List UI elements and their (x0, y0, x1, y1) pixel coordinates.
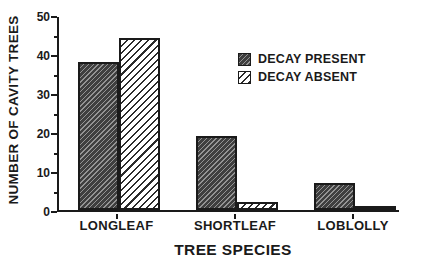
legend-label: DECAY ABSENT (258, 70, 357, 84)
y-tick-label-20: 20 (20, 127, 50, 141)
y-tick-label-0: 0 (20, 205, 50, 219)
bar-longleaf-decay-absent (119, 38, 160, 210)
category-label-shortleaf: SHORTLEAF (180, 218, 290, 233)
bar-loblolly-decay-present (314, 183, 355, 210)
y-tick-label-50: 50 (20, 10, 50, 24)
y-minor-tick-15 (54, 153, 57, 155)
y-tick-label-10: 10 (20, 166, 50, 180)
legend-item-decay-absent: DECAY ABSENT (238, 70, 366, 84)
y-major-tick-50 (51, 16, 57, 18)
y-minor-tick-35 (54, 75, 57, 77)
category-label-loblolly: LOBLOLLY (298, 218, 408, 233)
y-major-tick-20 (51, 133, 57, 135)
y-tick-label-40: 40 (20, 49, 50, 63)
bar-shortleaf-decay-present (196, 136, 237, 210)
x-axis-title: TREE SPECIES (123, 241, 343, 259)
y-axis-title: NUMBER OF CAVITY TREES (6, 5, 22, 215)
plot-area (57, 17, 399, 212)
y-tick-label-30: 30 (20, 88, 50, 102)
y-major-tick-30 (51, 94, 57, 96)
y-minor-tick-25 (54, 114, 57, 116)
y-minor-tick-45 (54, 36, 57, 38)
legend: DECAY PRESENTDECAY ABSENT (238, 52, 366, 88)
y-major-tick-40 (51, 55, 57, 57)
legend-label: DECAY PRESENT (258, 52, 366, 66)
y-minor-tick-5 (54, 192, 57, 194)
y-major-tick-10 (51, 172, 57, 174)
cavity-trees-bar-chart: NUMBER OF CAVITY TREES LONGLEAFSHORTLEAF… (0, 0, 424, 269)
category-label-longleaf: LONGLEAF (62, 218, 172, 233)
decay-absent-swatch-icon (238, 71, 251, 84)
bar-loblolly-decay-absent (355, 206, 396, 210)
y-major-tick-0 (51, 211, 57, 213)
decay-present-swatch-icon (238, 53, 251, 66)
bar-shortleaf-decay-absent (237, 202, 278, 210)
legend-item-decay-present: DECAY PRESENT (238, 52, 366, 66)
bar-longleaf-decay-present (78, 62, 119, 210)
